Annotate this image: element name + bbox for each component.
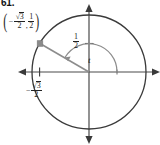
x-coordinate-numerator: √3	[14, 12, 26, 22]
terminal-radius-line	[40, 44, 89, 73]
x-radicand: 3	[19, 12, 24, 21]
close-paren: )	[36, 15, 40, 27]
neg-sqrt3-numerator: √3	[31, 81, 43, 91]
figure-container: 61. ( −	[0, 0, 160, 145]
sqrt-icon: √3	[32, 81, 42, 90]
sqrt-icon: √3	[15, 12, 25, 21]
y-axis	[85, 4, 94, 144]
y-coordinate-fraction: 1 2	[28, 13, 34, 30]
angle-label: t	[88, 55, 91, 65]
x-axis-left-arrowhead	[18, 68, 26, 75]
open-paren: (	[3, 15, 7, 27]
terminal-point-marker	[37, 41, 43, 47]
terminal-point-coordinate-label: ( − √3 2 , 1 2 )	[2, 12, 41, 30]
y-axis-bottom-arrowhead	[85, 136, 92, 144]
one-half-denominator: 2	[73, 42, 79, 50]
x-coordinate-fraction: √3 2	[14, 12, 26, 30]
y-axis-value-label: 1 2	[73, 33, 79, 50]
y-coordinate-denominator: 2	[28, 22, 34, 30]
x-axis-value-label: − √3 2	[26, 81, 42, 99]
neg-sqrt3-denominator: 2	[31, 91, 43, 99]
y-axis-top-arrowhead	[85, 4, 92, 12]
x-axis-right-arrowhead	[152, 68, 160, 75]
x-axis-radicand: 3	[36, 81, 41, 90]
one-half-fraction: 1 2	[73, 33, 79, 50]
neg-sqrt3-over-2-fraction: √3 2	[31, 81, 43, 99]
x-coordinate-denominator: 2	[14, 22, 26, 30]
